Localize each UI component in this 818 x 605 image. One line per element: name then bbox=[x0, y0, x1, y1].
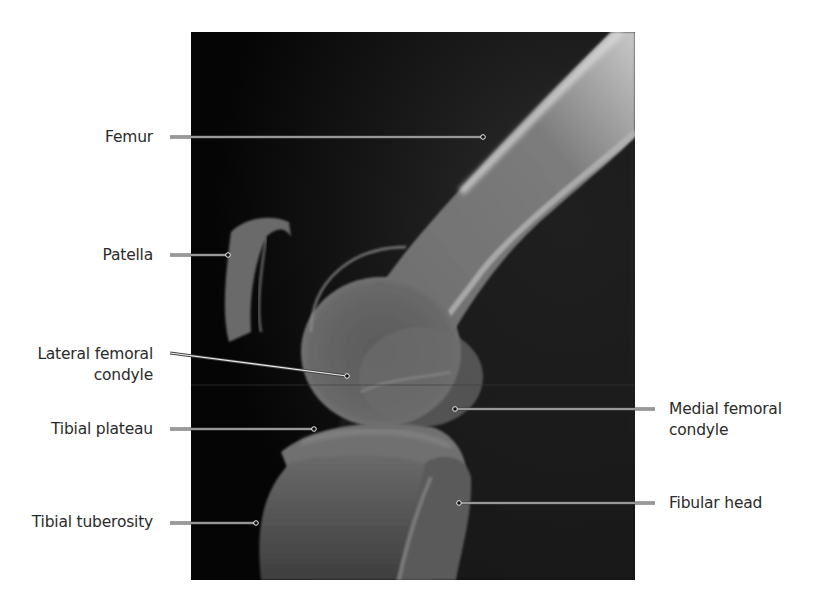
label-medial-femoral-condyle-line1: Medial femoral bbox=[669, 399, 782, 420]
leader-fibular-head bbox=[457, 501, 655, 506]
label-femur: Femur bbox=[105, 127, 153, 148]
label-lateral-femoral-condyle-line1: Lateral femoral bbox=[37, 344, 153, 365]
leader-tibial-plateau bbox=[170, 427, 316, 432]
leader-medial-femoral-condyle bbox=[453, 407, 655, 412]
label-medial-femoral-condyle-line2: condyle bbox=[669, 420, 782, 441]
leader-lateral-femoral-condyle bbox=[170, 353, 349, 378]
leader-patella bbox=[170, 253, 230, 258]
label-tibial-plateau: Tibial plateau bbox=[51, 419, 153, 440]
label-medial-femoral-condyle: Medial femoral condyle bbox=[669, 399, 782, 441]
leader-tibial-tuberosity bbox=[170, 521, 258, 526]
label-lateral-femoral-condyle-line2: condyle bbox=[37, 365, 153, 386]
label-tibial-tuberosity: Tibial tuberosity bbox=[32, 512, 153, 533]
label-lateral-femoral-condyle: Lateral femoral condyle bbox=[37, 344, 153, 386]
leader-femur bbox=[170, 135, 485, 140]
label-fibular-head: Fibular head bbox=[669, 493, 762, 514]
label-patella: Patella bbox=[103, 245, 153, 266]
